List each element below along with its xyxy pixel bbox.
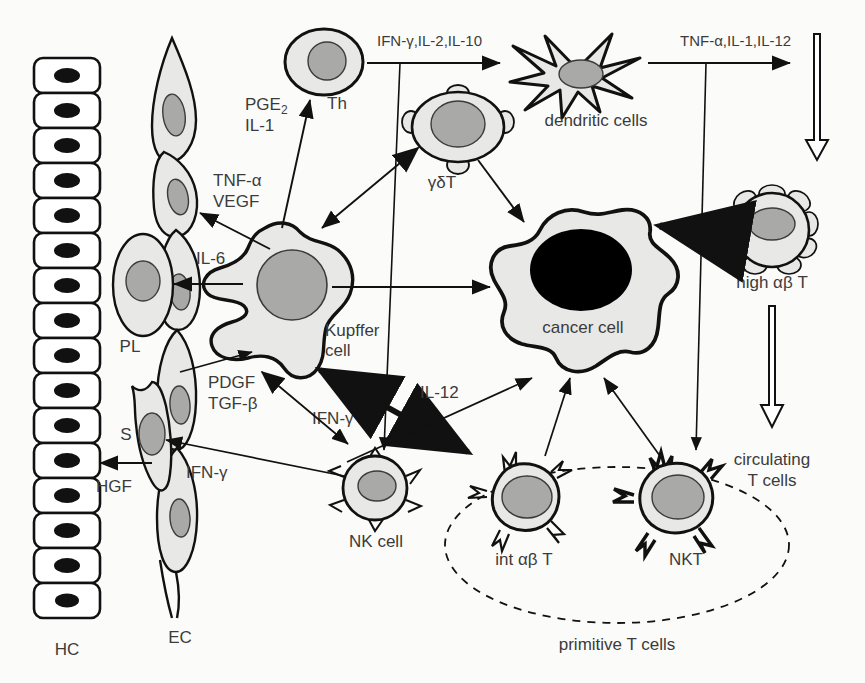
hgf-label: HGF: [96, 477, 132, 496]
hepatocyte-cell: [34, 478, 100, 513]
vegf-label: VEGF: [213, 192, 259, 211]
hepatocyte-cell: [34, 128, 100, 163]
kupffer-label-line1: Kupffer: [325, 321, 380, 340]
primitive-t-cells-label: primitive T cells: [559, 635, 676, 654]
hepatocyte-cell: [34, 443, 100, 478]
hepatocyte-cell: [34, 268, 100, 303]
pl-cell: [113, 234, 173, 336]
dendritic-cells-label: dendritic cells: [545, 111, 648, 130]
hepatocyte-cell: [34, 583, 100, 618]
circulating-label-line2: T cells: [748, 471, 797, 490]
tnfa-label: TNF-α: [213, 171, 262, 190]
th-cell: [285, 29, 363, 95]
ifng-b-label: IFN-γ: [186, 463, 228, 482]
hepatocyte-column: [34, 58, 100, 618]
nkt-label: NKT: [669, 550, 703, 569]
nk-cell-label: NK cell: [349, 532, 403, 551]
ifng-il2-il10-label: IFN-γ,IL-2,IL-10: [377, 32, 482, 49]
immune-network-diagram: HC EC PL S: [0, 0, 865, 683]
diagram-canvas: HC EC PL S: [0, 0, 865, 683]
hepatocyte-cell: [34, 163, 100, 198]
circulating-label-line1: circulating: [734, 450, 811, 469]
il6-label: IL-6: [196, 249, 225, 268]
int-ab-t-label: int αβ T: [495, 550, 552, 569]
pdgf-label: PDGF: [208, 373, 255, 392]
s-label: S: [120, 425, 131, 444]
hc-label: HC: [55, 640, 80, 659]
hepatocyte-cell: [34, 548, 100, 583]
hepatocyte-cell: [34, 513, 100, 548]
hepatocyte-cell: [34, 93, 100, 128]
cancer-cell-label: cancer cell: [542, 318, 623, 337]
hepatocyte-cell: [34, 198, 100, 233]
pl-label: PL: [120, 337, 141, 356]
hepatocyte-cell: [34, 373, 100, 408]
il1-label: IL-1: [245, 116, 274, 135]
hepatocyte-cell: [34, 233, 100, 268]
kupffer-label-line2: cell: [325, 341, 351, 360]
tnfa-il1-il12-label: TNF-α,IL-1,IL-12: [680, 32, 791, 49]
il12-label: IL-12: [420, 383, 459, 402]
th-label: Th: [327, 94, 347, 113]
hepatocyte-cell: [34, 338, 100, 373]
high-ab-t-label: high αβ T: [736, 273, 808, 292]
hepatocyte-cell: [34, 303, 100, 338]
tgfb-label: TGF-β: [208, 394, 258, 413]
ec-label: EC: [168, 628, 192, 647]
hepatocyte-cell: [34, 58, 100, 93]
gamma-delta-t-label: γδT: [428, 173, 456, 192]
hepatocyte-cell: [34, 408, 100, 443]
